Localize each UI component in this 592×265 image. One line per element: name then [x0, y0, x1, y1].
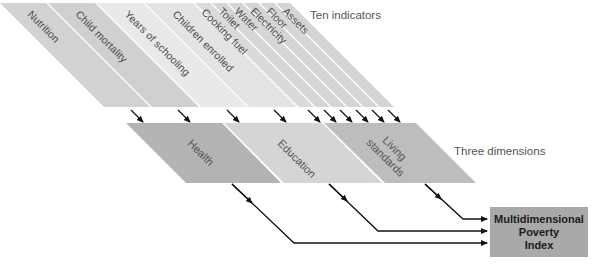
mpi-box: Multidimensional Poverty Index	[490, 207, 588, 257]
caption-three-dimensions: Three dimensions	[454, 145, 545, 157]
dimension-arrows	[232, 184, 487, 243]
caption-ten-indicators: Ten indicators	[310, 9, 381, 21]
mpi-line1: Multidimensional	[494, 213, 584, 226]
mpi-line3: Index	[525, 239, 554, 252]
mpi-line2: Poverty	[519, 226, 559, 239]
dimension-bands	[126, 123, 476, 183]
indicator-arrows	[131, 110, 400, 122]
